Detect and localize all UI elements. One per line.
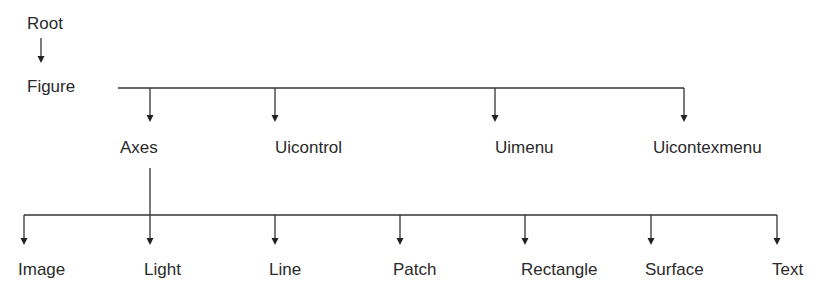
node-axes: Axes (120, 138, 158, 158)
arrowhead-icon (492, 115, 499, 122)
edge-axes-light (147, 238, 154, 245)
edge-axes-rectangle (522, 215, 529, 245)
arrowhead-icon (21, 238, 28, 245)
node-line: Line (269, 260, 301, 280)
arrowhead-icon (272, 238, 279, 245)
node-light: Light (144, 260, 181, 280)
hierarchy-diagram: Root Figure Axes Uicontrol Uimenu Uicont… (0, 0, 825, 298)
arrowhead-icon (147, 115, 154, 122)
node-patch: Patch (393, 260, 436, 280)
arrowhead-icon (522, 238, 529, 245)
node-figure: Figure (27, 77, 75, 97)
edge-figure-axes (147, 88, 154, 122)
arrowhead-icon (272, 115, 279, 122)
arrowhead-icon (147, 238, 154, 245)
node-root: Root (27, 14, 63, 34)
node-text: Text (772, 260, 803, 280)
arrowhead-icon (648, 238, 655, 245)
arrowhead-icon (38, 56, 45, 63)
node-uicontexmenu: Uicontexmenu (653, 138, 762, 158)
node-uicontrol: Uicontrol (275, 138, 342, 158)
edge-axes-text (774, 215, 781, 245)
edge-axes-patch (397, 215, 404, 245)
edge-axes-line (272, 215, 279, 245)
arrowhead-icon (397, 238, 404, 245)
edge-figure-uicontexmenu (681, 88, 688, 122)
arrowhead-icon (681, 115, 688, 122)
edge-root-figure (38, 38, 45, 63)
node-rectangle: Rectangle (521, 260, 598, 280)
node-uimenu: Uimenu (495, 138, 554, 158)
edge-axes-surface (648, 215, 655, 245)
node-surface: Surface (645, 260, 704, 280)
edge-axes-image (21, 215, 28, 245)
edge-figure-uimenu (492, 88, 499, 122)
edge-figure-uicontrol (272, 88, 279, 122)
node-image: Image (18, 260, 65, 280)
arrowhead-icon (774, 238, 781, 245)
